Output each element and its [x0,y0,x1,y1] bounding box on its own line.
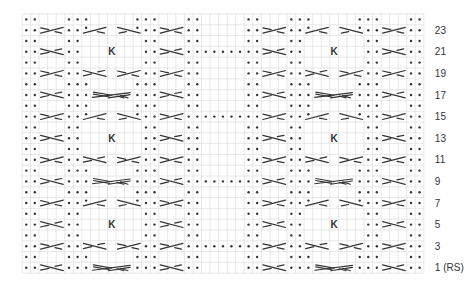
purl-dot-icon [418,245,420,247]
purl-dot-icon [153,202,155,204]
purl-dot-icon [367,40,369,42]
purl-dot-icon [25,245,27,247]
purl-dot-icon [25,29,27,31]
purl-dot-icon [299,213,301,215]
purl-dot-icon [247,18,249,20]
knit-k-label: K [330,46,338,57]
purl-dot-icon [418,234,420,236]
purl-dot-icon [76,234,78,236]
purl-dot-icon [299,29,301,31]
purl-dot-icon [299,94,301,96]
purl-dot-icon [153,223,155,225]
purl-dot-icon [188,191,190,193]
purl-dot-icon [290,213,292,215]
purl-dot-icon [196,267,198,269]
purl-dot-icon [290,126,292,128]
purl-dot-icon [145,115,147,117]
purl-dot-icon [153,51,155,53]
purl-dot-icon [299,159,301,161]
purl-dot-icon [410,126,412,128]
purl-dot-icon [153,61,155,63]
purl-dot-icon [145,148,147,150]
purl-dot-icon [76,29,78,31]
purl-dot-icon [34,202,36,204]
purl-dot-icon [418,159,420,161]
purl-dot-icon [376,256,378,258]
purl-dot-icon [196,72,198,74]
cable-stroke [97,205,104,206]
purl-dot-icon [85,180,87,182]
purl-dot-icon [376,202,378,204]
purl-dot-icon [34,18,36,20]
purl-dot-icon [25,83,27,85]
purl-dot-icon [290,29,292,31]
purl-dot-icon [213,51,215,53]
purl-dot-icon [290,18,292,20]
purl-dot-icon [25,126,27,128]
purl-dot-icon [188,213,190,215]
purl-dot-icon [25,223,27,225]
purl-dot-icon [359,18,361,20]
purl-dot-icon [299,191,301,193]
purl-dot-icon [367,51,369,53]
purl-dot-icon [230,51,232,53]
purl-dot-icon [247,180,249,182]
purl-dot-icon [410,18,412,20]
purl-dot-icon [145,40,147,42]
purl-dot-icon [367,202,369,204]
purl-dot-icon [376,159,378,161]
purl-dot-icon [222,115,224,117]
purl-dot-icon [196,245,198,247]
purl-dot-icon [256,169,258,171]
purl-dot-icon [34,83,36,85]
purl-dot-icon [367,94,369,96]
knit-k-label: K [108,46,116,57]
purl-dot-icon [299,169,301,171]
purl-dot-icon [367,213,369,215]
purl-dot-icon [68,105,70,107]
purl-dot-icon [145,256,147,258]
purl-dot-icon [247,83,249,85]
purl-dot-icon [136,105,138,107]
purl-dot-icon [359,113,361,115]
purl-dot-icon [418,61,420,63]
purl-dot-icon [359,191,361,193]
purl-dot-icon [68,267,70,269]
purl-dot-icon [196,137,198,139]
purl-dot-icon [410,213,412,215]
purl-dot-icon [68,51,70,53]
purl-dot-icon [247,169,249,171]
purl-dot-icon [153,126,155,128]
purl-dot-icon [205,245,207,247]
purl-dot-icon [196,234,198,236]
purl-dot-icon [145,202,147,204]
purl-dot-icon [376,137,378,139]
purl-dot-icon [367,256,369,258]
purl-dot-icon [410,256,412,258]
purl-dot-icon [256,61,258,63]
purl-dot-icon [410,40,412,42]
purl-dot-icon [410,169,412,171]
purl-dot-icon [367,137,369,139]
purl-dot-icon [376,213,378,215]
purl-dot-icon [256,148,258,150]
purl-dot-icon [153,105,155,107]
purl-dot-icon [25,40,27,42]
purl-dot-icon [196,169,198,171]
purl-dot-icon [188,159,190,161]
purl-dot-icon [290,51,292,53]
purl-dot-icon [153,148,155,150]
purl-dot-icon [410,223,412,225]
purl-dot-icon [68,180,70,182]
purl-dot-icon [68,126,70,128]
purl-dot-icon [247,40,249,42]
purl-dot-icon [145,267,147,269]
purl-dot-icon [376,94,378,96]
purl-dot-icon [418,72,420,74]
purl-dot-icon [196,159,198,161]
purl-dot-icon [145,245,147,247]
purl-dot-icon [376,180,378,182]
purl-dot-icon [376,83,378,85]
purl-dot-icon [76,94,78,96]
purl-dot-icon [68,202,70,204]
